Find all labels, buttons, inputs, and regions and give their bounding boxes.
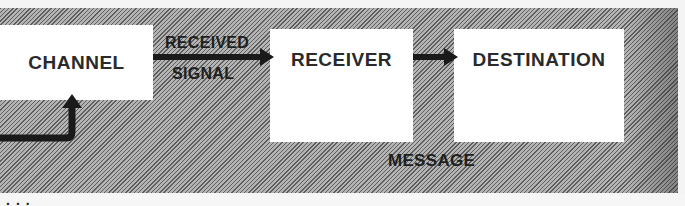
signal-label: SIGNAL (172, 65, 234, 83)
caption-fragment: ... (0, 194, 685, 206)
connector-arrows (0, 0, 685, 206)
message-label: MESSAGE (388, 151, 475, 171)
arrow-receiver-to-destination (413, 48, 458, 66)
feedback-arrow-into-channel (0, 94, 82, 138)
caption-fragment-text: ... (6, 192, 36, 206)
received-label: RECEIVED (165, 34, 249, 52)
